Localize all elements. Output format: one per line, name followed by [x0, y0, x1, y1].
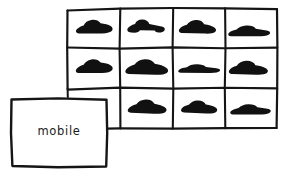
- grid-cell-r2c4[interactable]: [229, 61, 268, 75]
- grid-cell-r1c1[interactable]: [76, 20, 113, 34]
- hand-drawn-sketch: mobile: [0, 0, 284, 178]
- car-icon: [76, 59, 113, 73]
- grid-col-divider-1: [120, 9, 121, 129]
- grid-cell-r1c2[interactable]: [127, 20, 165, 33]
- grid-bottom-edge: [107, 128, 277, 129]
- car-icon: [76, 20, 113, 34]
- grid-right-edge: [277, 9, 278, 128]
- grid-cell-r3c2[interactable]: [128, 99, 167, 113]
- grid-col-divider-3: [225, 8, 226, 128]
- car-icon: [178, 64, 220, 73]
- car-icon: [128, 99, 167, 113]
- grid-cell-r1c3[interactable]: [179, 20, 216, 34]
- car-icon: [229, 61, 268, 75]
- grid-cell-r1c4[interactable]: [228, 26, 270, 37]
- grid-cell-r2c3[interactable]: [178, 64, 220, 73]
- grid-cell-r3c3[interactable]: [181, 100, 217, 113]
- car-icon: [125, 59, 168, 75]
- grid-cell-r2c1[interactable]: [76, 59, 113, 73]
- car-icon: [181, 100, 217, 113]
- car-icon: [127, 20, 165, 33]
- mobile-label-box[interactable]: mobile: [11, 98, 107, 167]
- car-icon: [179, 20, 216, 34]
- mobile-label-text: mobile: [37, 124, 80, 138]
- grid-cell-r3c4[interactable]: [230, 104, 271, 114]
- grid-col-divider-2: [173, 8, 174, 129]
- car-icon: [230, 104, 271, 114]
- grid-cell-r2c2[interactable]: [125, 59, 168, 75]
- car-icon: [228, 26, 270, 37]
- sketch-canvas: mobile hatchback pickup coupe sedan-low …: [0, 0, 284, 178]
